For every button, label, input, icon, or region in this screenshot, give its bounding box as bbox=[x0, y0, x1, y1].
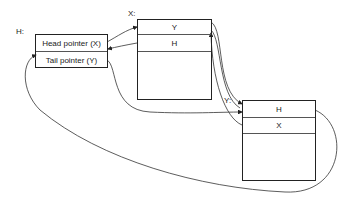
node-y-label: Y: bbox=[224, 97, 231, 105]
arrow-y-to-x bbox=[211, 33, 242, 125]
head-pointer-field: Head pointer (X) bbox=[36, 35, 107, 52]
node-x-label: X: bbox=[128, 10, 136, 18]
node-x-field-y: Y bbox=[138, 20, 211, 35]
arrow-head-to-x bbox=[107, 27, 137, 42]
node-y-field-h: H bbox=[243, 101, 315, 118]
node-x-field-h: H bbox=[138, 35, 211, 52]
header-node-label: H: bbox=[16, 28, 24, 36]
header-node: Head pointer (X) Tail pointer (Y) bbox=[35, 34, 108, 68]
arrow-x-to-h bbox=[108, 43, 137, 49]
arrow-x-to-y bbox=[211, 22, 242, 104]
node-y: H X bbox=[242, 100, 316, 181]
node-y-field-x: X bbox=[243, 118, 315, 134]
tail-pointer-field: Tail pointer (Y) bbox=[36, 52, 107, 68]
node-x: Y H bbox=[137, 19, 212, 100]
